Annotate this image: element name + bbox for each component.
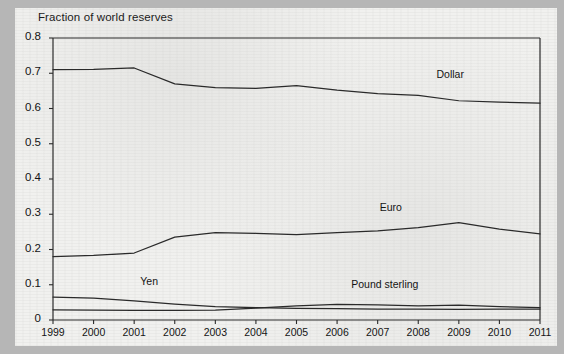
series-line-yen xyxy=(53,297,540,309)
plot-area xyxy=(0,0,564,354)
series-line-dollar xyxy=(53,68,540,103)
line-chart: Fraction of world reserves 00.10.20.30.4… xyxy=(0,0,564,354)
series-line-euro xyxy=(53,223,540,257)
